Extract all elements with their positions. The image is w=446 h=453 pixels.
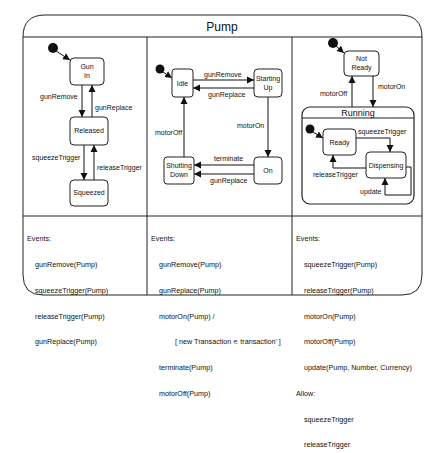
event-item: releaseTrigger(Pump): [27, 313, 108, 322]
allow-item: squeezeTrigger: [296, 416, 412, 425]
state-gun-in[interactable]: Gun In: [70, 58, 104, 85]
state-dispensing[interactable]: Dispensing: [366, 152, 406, 178]
svg-text:Dispensing: Dispensing: [369, 162, 404, 170]
svg-text:Idle: Idle: [177, 80, 188, 87]
transition-label: gunReplace: [210, 177, 247, 185]
svg-text:Ready: Ready: [329, 139, 350, 147]
transition-label: squeezeTrigger: [32, 154, 81, 162]
state-ready[interactable]: Ready: [323, 129, 356, 155]
event-item: gunReplace(Pump): [27, 338, 108, 347]
transition-label: releaseTrigger: [313, 171, 359, 179]
event-item: update(Pump, Number, Currency): [296, 364, 412, 373]
transition-label: gunRemove: [40, 93, 78, 101]
svg-text:Ready: Ready: [351, 64, 372, 72]
event-item: squeezeTrigger(Pump): [27, 287, 108, 296]
state-not-ready[interactable]: Not Ready: [344, 51, 379, 76]
transition-label: releaseTrigger: [97, 164, 143, 172]
transition-label: motorOff: [155, 129, 182, 136]
transition-label: gunReplace: [208, 91, 245, 99]
diagram-title: Pump: [206, 20, 238, 34]
event-item: motorOff(Pump): [296, 338, 412, 347]
events-header: Events:: [296, 235, 412, 244]
svg-text:Down: Down: [170, 171, 188, 178]
state-idle[interactable]: Idle: [172, 69, 193, 97]
state-starting-up[interactable]: Starting Up: [254, 69, 282, 97]
svg-text:Squeezed: Squeezed: [73, 189, 105, 197]
events-panel-gun: Events: gunRemove(Pump) squeezeTrigger(P…: [27, 218, 108, 356]
event-item: terminate(Pump): [151, 364, 281, 373]
events-header: Events:: [27, 235, 108, 244]
svg-text:In: In: [84, 72, 90, 79]
state-released[interactable]: Released: [70, 117, 108, 145]
state-shutting-down[interactable]: Shutting Down: [164, 157, 194, 184]
svg-text:Running: Running: [341, 108, 375, 118]
event-item: gunRemove(Pump): [151, 261, 281, 270]
transition-label: motorOff: [320, 90, 347, 97]
svg-text:Gun: Gun: [80, 63, 93, 70]
event-item: motorOn(Pump): [296, 313, 412, 322]
transition-label: motorOn: [237, 122, 264, 129]
event-item: motorOff(Pump): [151, 390, 281, 399]
transition-label: gunRemove: [204, 71, 242, 79]
event-item: squeezeTrigger(Pump): [296, 261, 412, 270]
event-item: gunReplace(Pump): [151, 287, 281, 296]
transition-label: gunReplace: [95, 104, 132, 112]
event-item: gunRemove(Pump): [27, 261, 108, 270]
transition-label: squeezeTrigger: [358, 128, 407, 136]
svg-text:Up: Up: [264, 84, 273, 92]
event-item: releaseTrigger(Pump): [296, 287, 412, 296]
state-on[interactable]: On: [254, 157, 282, 184]
svg-text:Starting: Starting: [256, 75, 280, 83]
events-panel-motor: Events: gunRemove(Pump) gunReplace(Pump)…: [151, 218, 281, 407]
transition-label: motorOn: [378, 83, 405, 90]
state-squeezed[interactable]: Squeezed: [70, 180, 108, 206]
transition-label: terminate: [214, 155, 243, 162]
transition-label: update: [360, 188, 382, 196]
events-panel-running: Events: squeezeTrigger(Pump) releaseTrig…: [296, 218, 412, 453]
svg-text:Not: Not: [356, 55, 367, 62]
svg-text:Shutting: Shutting: [166, 162, 192, 170]
svg-text:Released: Released: [74, 127, 104, 134]
event-guard: [ new Transaction ∊ transaction' ]: [151, 338, 281, 347]
allow-header: Allow:: [296, 390, 412, 399]
events-header: Events:: [151, 235, 281, 244]
event-item: motorOn(Pump) /: [151, 313, 281, 322]
svg-text:On: On: [263, 167, 272, 174]
allow-item: releaseTrigger: [296, 441, 412, 450]
